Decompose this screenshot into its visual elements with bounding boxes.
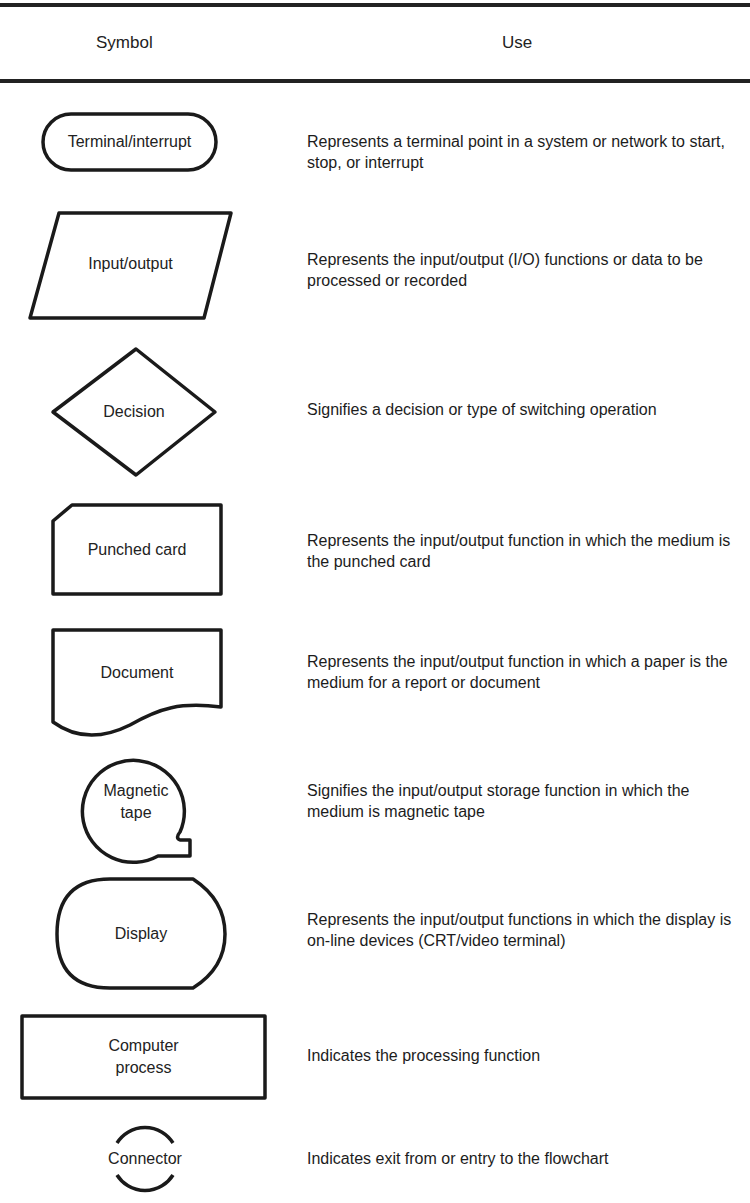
punched-card-label: Punched card bbox=[53, 539, 221, 561]
terminal-label: Terminal/interrupt bbox=[43, 131, 216, 153]
magnetic-tape-label-line2: tape bbox=[86, 802, 186, 824]
process-label-line2: process bbox=[22, 1057, 265, 1079]
punched-card-use: Represents the input/output function in … bbox=[307, 530, 747, 572]
display-use: Represents the input/output functions in… bbox=[307, 909, 747, 951]
decision-use: Signifies a decision or type of switchin… bbox=[307, 399, 747, 420]
magnetic-tape-use: Signifies the input/output storage funct… bbox=[307, 780, 747, 822]
connector-top-arc bbox=[117, 1127, 173, 1143]
input-output-use: Represents the input/output (I/O) functi… bbox=[307, 249, 747, 291]
flowchart-symbols bbox=[0, 0, 750, 1203]
process-label-line1: Computer bbox=[22, 1035, 265, 1057]
process-label: Computer process bbox=[22, 1035, 265, 1079]
input-output-label: Input/output bbox=[30, 253, 231, 275]
connector-use: Indicates exit from or entry to the flow… bbox=[307, 1148, 747, 1169]
magnetic-tape-label: Magnetic tape bbox=[86, 780, 186, 824]
terminal-use: Represents a terminal point in a system … bbox=[307, 131, 747, 173]
magnetic-tape-label-line1: Magnetic bbox=[86, 780, 186, 802]
connector-label: Connector bbox=[85, 1148, 205, 1170]
process-use: Indicates the processing function bbox=[307, 1045, 747, 1066]
document-use: Represents the input/output function in … bbox=[307, 651, 747, 693]
connector-bottom-arc bbox=[117, 1175, 173, 1191]
display-label: Display bbox=[57, 923, 225, 945]
decision-label: Decision bbox=[53, 401, 215, 423]
document-label: Document bbox=[53, 662, 221, 684]
